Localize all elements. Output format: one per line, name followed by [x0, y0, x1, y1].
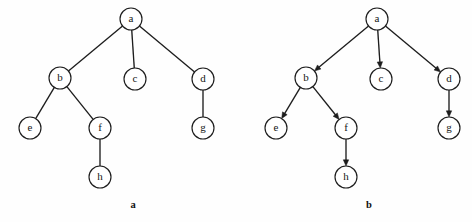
tree-node-f[interactable]: f — [335, 117, 357, 139]
tree-node-d[interactable]: d — [192, 68, 214, 90]
tree-diagram-figure: abcdefghaabcdefghb — [0, 0, 472, 222]
tree-node-g[interactable]: g — [438, 117, 460, 139]
tree-edge-b-e — [36, 87, 55, 118]
figure-container: abcdefghaabcdefghb — [0, 0, 472, 222]
tree-node-a[interactable]: a — [366, 8, 388, 30]
panel-b: abcdefghb — [265, 8, 460, 210]
node-label-h: h — [97, 170, 103, 182]
tree-node-b[interactable]: b — [295, 67, 317, 89]
tree-node-e[interactable]: e — [265, 117, 287, 139]
node-label-e: e — [274, 121, 279, 133]
tree-node-g[interactable]: g — [192, 117, 214, 139]
tree-node-b[interactable]: b — [49, 67, 71, 89]
node-label-d: d — [446, 72, 452, 84]
node-label-e: e — [28, 121, 33, 133]
tree-node-e[interactable]: e — [19, 117, 41, 139]
tree-node-c[interactable]: c — [124, 68, 146, 90]
tree-edge-b-f — [313, 87, 337, 117]
tree-node-d[interactable]: d — [438, 68, 460, 90]
node-label-f: f — [98, 121, 102, 133]
tree-node-f[interactable]: f — [89, 117, 111, 139]
node-label-g: g — [200, 121, 206, 133]
node-label-d: d — [200, 72, 206, 84]
tree-node-c[interactable]: c — [370, 68, 392, 90]
node-label-h: h — [343, 170, 349, 182]
tree-edge-a-c — [132, 30, 135, 68]
node-label-c: c — [133, 72, 138, 84]
tree-edge-b-e — [283, 87, 300, 115]
tree-node-a[interactable]: a — [120, 8, 142, 30]
node-label-f: f — [344, 121, 348, 133]
edge-layer — [282, 26, 452, 166]
tree-node-h[interactable]: h — [89, 166, 111, 188]
node-label-b: b — [57, 71, 63, 83]
tree-edge-a-c — [378, 30, 380, 65]
node-label-b: b — [303, 71, 309, 83]
node-label-a: a — [375, 12, 380, 24]
arrowhead-icon-a-c — [377, 62, 382, 68]
arrowhead-icon-d-g — [446, 111, 451, 117]
tree-edge-a-d — [385, 26, 437, 70]
edge-layer — [36, 26, 203, 166]
tree-edge-a-d — [139, 26, 194, 72]
panel-b-caption: b — [366, 199, 372, 210]
arrowhead-icon-f-h — [343, 160, 348, 166]
tree-edge-b-f — [67, 87, 93, 120]
tree-edge-a-b — [317, 26, 368, 69]
node-label-c: c — [379, 72, 384, 84]
panel-a: abcdefgha — [19, 8, 214, 210]
node-label-g: g — [446, 121, 452, 133]
tree-node-h[interactable]: h — [335, 166, 357, 188]
arrowhead-icon-b-e — [282, 112, 288, 119]
node-label-a: a — [129, 12, 134, 24]
panel-a-caption: a — [130, 199, 136, 210]
tree-edge-a-b — [68, 26, 122, 71]
